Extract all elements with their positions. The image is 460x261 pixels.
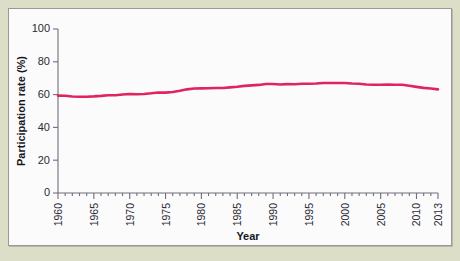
x-tick-label: 1990 xyxy=(267,203,279,227)
y-tick-label: 40 xyxy=(38,121,50,133)
x-tick-label: 1985 xyxy=(231,203,243,227)
y-tick-group: 020406080100 xyxy=(32,22,58,198)
axes-group xyxy=(58,29,438,193)
figure-root: 020406080100 196019651970197519801985199… xyxy=(0,0,460,261)
chart-panel: 020406080100 196019651970197519801985199… xyxy=(8,8,452,246)
x-tick-label: 1995 xyxy=(303,203,315,227)
y-tick-label: 60 xyxy=(38,88,50,100)
y-tick-label: 80 xyxy=(38,55,50,67)
y-tick-label: 0 xyxy=(44,186,50,198)
x-axis-title: Year xyxy=(236,230,260,242)
series-group xyxy=(58,83,438,97)
x-tick-label: 2005 xyxy=(375,203,387,227)
axis-frame xyxy=(58,29,438,193)
y-axis-title: Participation rate (%) xyxy=(15,56,27,166)
participation-rate-line xyxy=(58,83,438,97)
x-tick-label: 1965 xyxy=(88,203,100,227)
x-tick-label: 2010 xyxy=(410,203,422,227)
y-tick-label: 100 xyxy=(32,22,50,34)
x-tick-label: 2000 xyxy=(339,203,351,227)
x-tick-label: 1970 xyxy=(124,203,136,227)
x-tick-label: 1975 xyxy=(160,203,172,227)
line-chart: 020406080100 196019651970197519801985199… xyxy=(9,9,453,247)
x-tick-label: 1980 xyxy=(195,203,207,227)
x-tick-label: 1960 xyxy=(52,203,64,227)
x-tick-group: 1960196519701975198019851990199520002005… xyxy=(52,193,444,226)
x-tick-label: 2013 xyxy=(432,203,444,227)
y-tick-label: 20 xyxy=(38,154,50,166)
